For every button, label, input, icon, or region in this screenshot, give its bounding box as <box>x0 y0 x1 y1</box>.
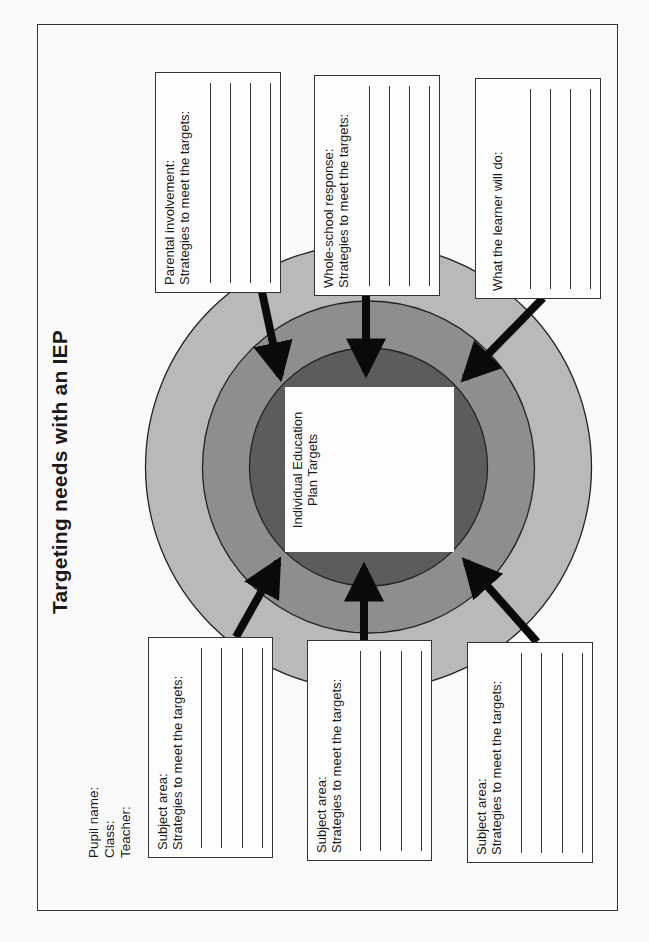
box-learner: What the learner will do: <box>475 78 601 299</box>
writing-line[interactable] <box>521 653 522 853</box>
writing-line[interactable] <box>582 653 583 853</box>
writing-line[interactable] <box>250 83 251 283</box>
box-subject-2: Subject area: Strategies to meet the tar… <box>307 640 432 861</box>
box-subheading: Strategies to meet the targets: <box>170 676 185 850</box>
writing-line[interactable] <box>389 86 390 286</box>
writing-line[interactable] <box>369 86 370 286</box>
box-subheading: Strategies to meet the targets: <box>177 111 192 285</box>
writing-line[interactable] <box>210 83 211 283</box>
box-heading: Subject area: <box>474 681 489 855</box>
writing-line[interactable] <box>429 86 430 286</box>
box-subject-1: Subject area: Strategies to meet the tar… <box>148 637 273 858</box>
box-subject-3: Subject area: Strategies to meet the tar… <box>467 642 593 863</box>
writing-line[interactable] <box>409 86 410 286</box>
center-label-line1: Individual Education <box>290 400 305 540</box>
box-subheading: Strategies to meet the targets: <box>489 681 504 855</box>
writing-line[interactable] <box>562 653 563 853</box>
box-subheading: Strategies to meet the targets: <box>336 114 351 288</box>
box-parental: Parental involvement: Strategies to meet… <box>155 72 281 293</box>
writing-line[interactable] <box>270 83 271 283</box>
box-subheading: Strategies to meet the targets: <box>329 679 344 853</box>
center-label: Individual Education Plan Targets <box>290 400 320 540</box>
box-whole-school: Whole-school response: Strategies to mee… <box>314 75 440 296</box>
box-heading: What the learner will do: <box>490 152 505 291</box>
writing-line[interactable] <box>360 651 361 851</box>
writing-line[interactable] <box>201 648 202 848</box>
writing-line[interactable] <box>230 83 231 283</box>
writing-line[interactable] <box>380 651 381 851</box>
writing-line[interactable] <box>530 89 531 289</box>
writing-line[interactable] <box>262 648 263 848</box>
box-heading: Parental involvement: <box>162 111 177 285</box>
box-heading: Subject area: <box>314 679 329 853</box>
writing-line[interactable] <box>570 89 571 289</box>
writing-line[interactable] <box>421 651 422 851</box>
writing-line[interactable] <box>550 89 551 289</box>
writing-line[interactable] <box>221 648 222 848</box>
center-label-line2: Plan Targets <box>305 400 320 540</box>
writing-line[interactable] <box>401 651 402 851</box>
box-heading: Whole-school response: <box>321 114 336 288</box>
writing-line[interactable] <box>242 648 243 848</box>
writing-line[interactable] <box>541 653 542 853</box>
writing-line[interactable] <box>590 89 591 289</box>
box-heading: Subject area: <box>155 676 170 850</box>
